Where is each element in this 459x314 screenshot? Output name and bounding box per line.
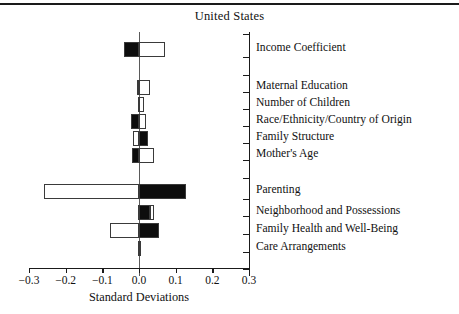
bar-segment-negative <box>131 114 139 129</box>
value-tick-label: −0.3 <box>9 274 49 286</box>
bar-segment-negative <box>110 223 139 238</box>
category-label: Number of Children <box>256 96 350 110</box>
value-tick-label: 0.0 <box>119 274 159 286</box>
category-label: Neighborhood and Possessions <box>256 204 400 218</box>
category-label: Income Coefficient <box>256 41 346 55</box>
bar-segment-positive <box>139 80 150 95</box>
value-tick-label: −0.2 <box>46 274 86 286</box>
category-label: Care Arrangements <box>256 240 346 254</box>
bar-segment-positive <box>139 42 165 57</box>
bar-segment-positive <box>139 148 154 163</box>
value-tick-label: −0.1 <box>82 274 122 286</box>
category-tick <box>243 75 249 76</box>
category-tick <box>243 234 249 235</box>
category-tick <box>243 160 249 161</box>
bar-segment-negative <box>44 184 139 199</box>
plot-area: Income CoefficientMaternal EducationNumb… <box>0 24 459 270</box>
value-tick <box>212 268 213 273</box>
bar-segment-negative <box>124 42 139 57</box>
category-axis-line <box>249 32 250 276</box>
value-tick-label: 0.3 <box>229 274 269 286</box>
bar-segment-negative <box>132 148 139 163</box>
bar-segment-positive <box>139 223 159 238</box>
bar-segment-positive <box>139 205 150 220</box>
value-tick-label: 0.1 <box>156 274 196 286</box>
chart-title: United States <box>0 9 459 24</box>
value-tick <box>249 268 250 273</box>
category-tick <box>243 199 249 200</box>
x-axis-title: Standard Deviations <box>29 290 249 305</box>
category-tick <box>243 57 249 58</box>
top-rule <box>0 3 459 5</box>
category-label: Parenting <box>256 183 300 197</box>
value-tick <box>66 268 67 273</box>
category-tick <box>243 216 249 217</box>
bar-segment-positive <box>139 114 146 129</box>
category-tick <box>243 143 249 144</box>
category-label: Family Health and Well-Being <box>256 222 398 236</box>
value-tick <box>29 268 30 273</box>
value-tick <box>102 268 103 273</box>
category-label: Maternal Education <box>256 79 348 93</box>
category-label: Family Structure <box>256 130 334 144</box>
value-tick <box>176 268 177 273</box>
category-tick <box>243 34 249 35</box>
bar-segment-positive-outline <box>150 205 154 220</box>
category-tick <box>243 92 249 93</box>
bar-segment-positive <box>139 131 148 146</box>
category-label: Mother's Age <box>256 147 318 161</box>
bar-segment-positive <box>139 241 141 256</box>
category-tick <box>243 109 249 110</box>
bar-segment-positive <box>139 97 144 112</box>
category-label: Race/Ethnicity/Country of Origin <box>256 113 412 127</box>
value-tick <box>139 268 140 273</box>
category-tick <box>243 126 249 127</box>
category-tick <box>243 252 249 253</box>
value-tick-label: 0.2 <box>192 274 232 286</box>
bar-segment-positive <box>139 184 186 199</box>
category-tick <box>243 178 249 179</box>
